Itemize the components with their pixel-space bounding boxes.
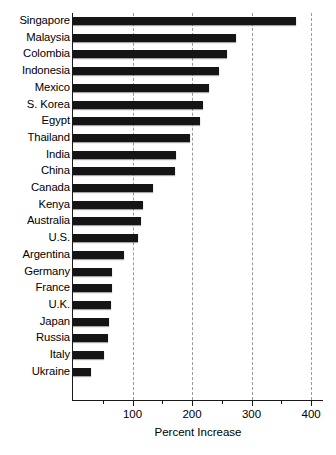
bar-row [73, 80, 323, 97]
bar-row [73, 230, 323, 247]
bar-row [73, 97, 323, 114]
bar [73, 268, 112, 276]
x-tick-major-200 [192, 400, 193, 406]
bar [73, 50, 227, 58]
bar [73, 284, 112, 292]
bar [73, 34, 236, 42]
bar-row [73, 364, 323, 381]
bar-row [73, 180, 323, 197]
bar-row [73, 347, 323, 364]
bar [73, 334, 108, 342]
bar-row [73, 163, 323, 180]
x-tick-label: 200 [172, 407, 212, 421]
bar-row [73, 30, 323, 47]
bar [73, 17, 296, 25]
bar [73, 101, 203, 109]
bar-chart-figure: SingaporeMalaysiaColombiaIndonesiaMexico… [0, 0, 336, 455]
category-label: Kenya [0, 198, 70, 210]
bar [73, 134, 190, 142]
category-label: Thailand [0, 131, 70, 143]
bar-row [73, 280, 323, 297]
category-label: Malaysia [0, 31, 70, 43]
bar [73, 201, 143, 209]
category-label: S. Korea [0, 98, 70, 110]
bar [73, 184, 153, 192]
category-label: Egypt [0, 114, 70, 126]
bar [73, 234, 138, 242]
bar-row [73, 113, 323, 130]
x-tick-major-100 [133, 400, 134, 406]
bar [73, 251, 124, 259]
bar [73, 318, 109, 326]
x-axis-line [72, 400, 323, 401]
category-label: Australia [0, 214, 70, 226]
bar [73, 368, 91, 376]
category-label: Germany [0, 265, 70, 277]
x-tick-minor-150 [162, 400, 163, 404]
x-axis-title: Percent Increase [73, 426, 323, 438]
x-tick-major-400 [311, 400, 312, 406]
bar-row [73, 213, 323, 230]
category-label: U.K. [0, 298, 70, 310]
bar-row [73, 63, 323, 80]
category-label: Japan [0, 315, 70, 327]
bar-row [73, 297, 323, 314]
x-tick-minor-250 [222, 400, 223, 404]
category-label: Ukraine [0, 365, 70, 377]
category-label: U.S. [0, 231, 70, 243]
bar-row [73, 314, 323, 331]
bar-row [73, 247, 323, 264]
bar [73, 351, 104, 359]
bar-row [73, 147, 323, 164]
bars-group [73, 13, 323, 400]
bar-row [73, 130, 323, 147]
bar-row [73, 264, 323, 281]
category-label: Mexico [0, 81, 70, 93]
x-tick-minor-350 [281, 400, 282, 404]
bar [73, 301, 111, 309]
bar [73, 67, 219, 75]
category-label: Colombia [0, 47, 70, 59]
bar [73, 167, 175, 175]
category-axis-labels: SingaporeMalaysiaColombiaIndonesiaMexico… [0, 13, 70, 400]
category-label: Singapore [0, 14, 70, 26]
bar-row [73, 46, 323, 63]
bar-row [73, 197, 323, 214]
bar-row [73, 13, 323, 30]
category-label: China [0, 164, 70, 176]
x-tick-label: 100 [113, 407, 153, 421]
category-label: Russia [0, 331, 70, 343]
bar [73, 117, 200, 125]
category-label: Argentina [0, 248, 70, 260]
x-tick-label: 400 [291, 407, 331, 421]
category-label: Canada [0, 181, 70, 193]
bar [73, 84, 209, 92]
x-tick-minor-50 [103, 400, 104, 404]
category-label: Italy [0, 348, 70, 360]
category-label: Indonesia [0, 64, 70, 76]
bar [73, 151, 176, 159]
x-tick-label: 300 [232, 407, 272, 421]
bar [73, 217, 141, 225]
category-label: France [0, 281, 70, 293]
bar-row [73, 330, 323, 347]
x-tick-major-300 [252, 400, 253, 406]
category-label: India [0, 148, 70, 160]
